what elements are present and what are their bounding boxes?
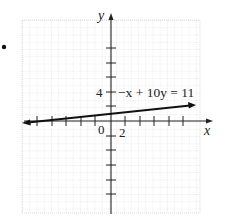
- y-tick-label-4: 4: [96, 85, 103, 100]
- origin-label: 0: [98, 122, 105, 137]
- x-tick-label-2: 2: [119, 125, 126, 140]
- x-axis-label: x: [203, 123, 211, 138]
- y-axis-arrow-icon: [109, 13, 114, 20]
- bullet-point: [2, 45, 6, 49]
- graph: y x 4 0 2 −x + 10y = 11: [0, 0, 250, 221]
- equation-label: −x + 10y = 11: [118, 85, 194, 100]
- y-axis-label: y: [96, 8, 105, 23]
